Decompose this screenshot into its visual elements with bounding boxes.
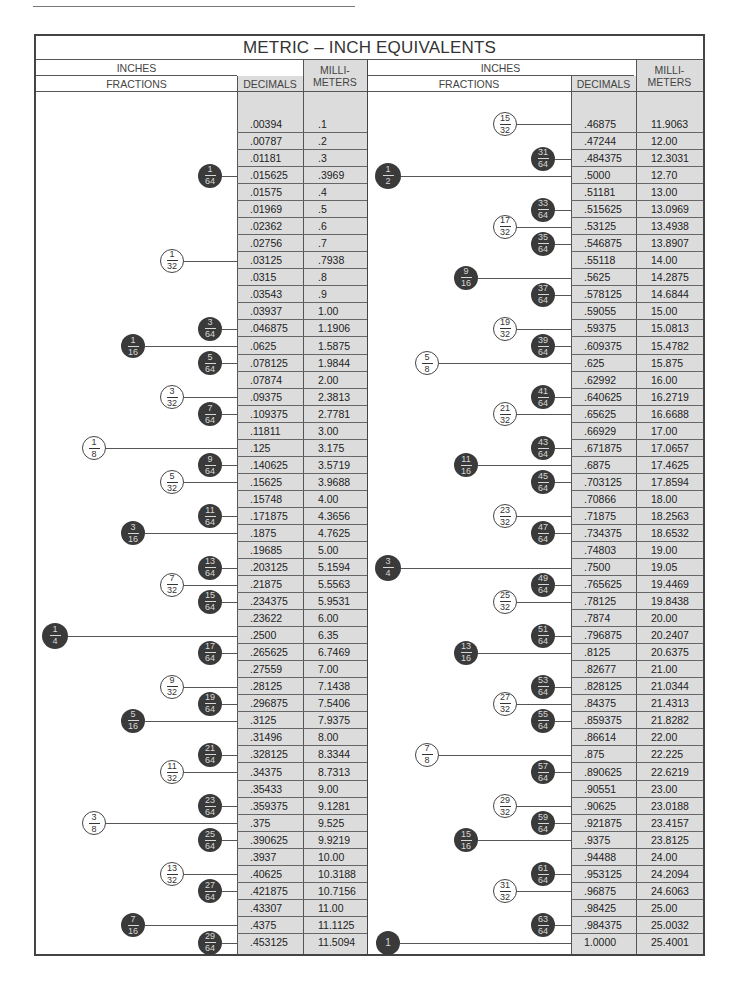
millimeter-cell: 11.9063 — [636, 92, 703, 133]
fraction-badge: 1332 — [160, 862, 184, 886]
fraction-denominator: 64 — [205, 176, 215, 186]
fraction-denominator: 32 — [500, 125, 510, 135]
page-header-rule — [33, 6, 355, 7]
fraction-denominator: 64 — [538, 483, 548, 493]
leader-line — [517, 227, 571, 228]
millimeter-cell: 19.4469 — [636, 576, 703, 593]
millimeter-cell: 9.1281 — [303, 798, 367, 815]
decimal-cell: .90551 — [571, 781, 636, 798]
fraction-denominator: 16 — [128, 926, 138, 936]
leader-line — [222, 806, 237, 807]
leader-line — [400, 568, 571, 569]
millimeter-cell: 6.7469 — [303, 644, 367, 661]
right-inches-header: INCHES — [367, 60, 634, 76]
decimal-cell: .01969 — [237, 201, 303, 218]
fraction-badge: 3764 — [531, 283, 555, 307]
fraction-numerator: 5 — [128, 710, 139, 721]
leader-line — [555, 448, 571, 449]
fraction-denominator: 64 — [538, 636, 548, 646]
right-fractions-header: FRACTIONS — [367, 76, 571, 92]
fraction-numerator: 45 — [538, 472, 549, 483]
leader-line — [222, 568, 237, 569]
fraction-numerator: 7 — [422, 744, 433, 755]
millimeter-cell: 3.00 — [303, 423, 367, 440]
leader-line — [517, 124, 571, 125]
fraction-numerator: 13 — [167, 864, 178, 875]
fraction-badge: 6164 — [531, 862, 555, 886]
fraction-badge: 3164 — [531, 147, 555, 171]
leader-line — [222, 943, 237, 944]
fraction-numerator: 9 — [205, 455, 216, 466]
decimal-cell: .70866 — [571, 491, 636, 508]
fraction-numerator: 13 — [205, 557, 216, 568]
decimal-cell: .90625 — [571, 798, 636, 815]
fraction-numerator: 3 — [205, 318, 216, 329]
millimeter-cell: 17.00 — [636, 423, 703, 440]
leader-line — [222, 465, 237, 466]
millimeter-cell: 24.6063 — [636, 883, 703, 900]
fraction-numerator: 1 — [128, 336, 139, 347]
millimeter-cell: 16.6688 — [636, 406, 703, 423]
millimeter-cell: .3969 — [303, 167, 367, 184]
fraction-denominator: 64 — [538, 875, 548, 885]
decimal-cell: .03543 — [237, 286, 303, 303]
millimeter-cell: 23.0188 — [636, 798, 703, 815]
fraction-numerator: 1 — [383, 165, 394, 176]
leader-line — [517, 516, 571, 517]
fraction-denominator: 64 — [205, 892, 215, 902]
decimal-cell: .23622 — [237, 610, 303, 627]
decimal-cell: .65625 — [571, 406, 636, 423]
millimeter-cell: 11.00 — [303, 900, 367, 917]
leader-line — [222, 414, 237, 415]
leader-line — [555, 533, 571, 534]
fraction-denominator: 64 — [538, 449, 548, 459]
millimeter-cell: 18.2563 — [636, 508, 703, 525]
decimal-cell: .28125 — [237, 678, 303, 695]
millimeter-cell: 20.6375 — [636, 644, 703, 661]
leader-line — [184, 874, 237, 875]
decimal-cell: .09375 — [237, 389, 303, 406]
fraction-denominator: 64 — [205, 943, 215, 953]
fraction-denominator: 32 — [167, 398, 177, 408]
decimal-cell: .953125 — [571, 866, 636, 883]
decimal-cell: .9375 — [571, 832, 636, 849]
fraction-numerator: 17 — [500, 216, 511, 227]
fraction-badge: 1532 — [493, 112, 517, 136]
decimal-cell: .375 — [237, 815, 303, 832]
leader-line — [222, 516, 237, 517]
fraction-numerator: 35 — [538, 233, 549, 244]
fraction-denominator: 32 — [500, 227, 510, 237]
millimeter-cell: 13.00 — [636, 184, 703, 201]
leader-line — [145, 721, 237, 722]
fraction-badge: 18 — [82, 436, 106, 460]
decimal-cell: .34375 — [237, 763, 303, 780]
fraction-badge: 5964 — [531, 811, 555, 835]
leader-line — [555, 721, 571, 722]
decimal-cell: .03125 — [237, 252, 303, 269]
millimeter-cell: 1.9844 — [303, 355, 367, 372]
fraction-numerator: 43 — [538, 438, 549, 449]
decimal-cell: .84375 — [571, 695, 636, 712]
fraction-badge: 516 — [121, 709, 145, 733]
decimal-cell: .51181 — [571, 184, 636, 201]
left-millimeters-header: MILLI- METERS — [303, 60, 367, 92]
leader-line — [555, 687, 571, 688]
millimeter-cell: 8.00 — [303, 729, 367, 746]
fraction-numerator: 23 — [205, 796, 216, 807]
fraction-numerator: 5 — [167, 472, 178, 483]
decimal-cell: .00787 — [237, 133, 303, 150]
fraction-numerator: 59 — [538, 813, 549, 824]
millimeter-cell: 4.3656 — [303, 508, 367, 525]
decimal-cell: .390625 — [237, 832, 303, 849]
decimal-cell: .625 — [571, 355, 636, 372]
millimeter-cell: .2 — [303, 133, 367, 150]
fraction-badge: 3132 — [493, 879, 517, 903]
decimal-cell: .765625 — [571, 576, 636, 593]
fraction-badge: 5564 — [531, 709, 555, 733]
fraction-badge: 1132 — [160, 760, 184, 784]
decimal-cell: .15748 — [237, 491, 303, 508]
decimal-cell: .01181 — [237, 150, 303, 167]
decimal-cell: .82677 — [571, 661, 636, 678]
fraction-numerator: 31 — [538, 148, 549, 159]
millimeter-cell: 15.00 — [636, 303, 703, 320]
